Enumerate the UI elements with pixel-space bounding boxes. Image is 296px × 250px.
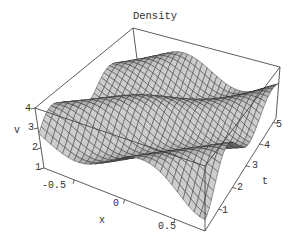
box-edge-right-vertical — [276, 67, 280, 118]
t-tick-3: 3 — [252, 160, 258, 171]
t-tick-2: 2 — [237, 182, 243, 193]
t-tick-1: 1 — [222, 205, 228, 216]
x-tick-neg0.5: -0.5 — [42, 180, 66, 191]
t-tick-5: 5 — [276, 119, 282, 130]
chart-title: Density — [133, 10, 177, 22]
t-tick-mark — [260, 144, 264, 145]
v-tick-3: 3 — [28, 122, 34, 133]
v-tick-2: 2 — [32, 142, 38, 153]
t-axis-label: t — [262, 176, 268, 187]
v-axis-label: v — [14, 125, 20, 136]
x-tick-0: 0 — [113, 198, 119, 209]
x-tick-mark — [73, 180, 74, 184]
surface-mesh — [39, 52, 279, 220]
x-axis-label: x — [99, 215, 105, 226]
v-tick-4: 4 — [25, 103, 31, 114]
density-surface-plot: Density v 4 3 2 1 -0.5 0 x 0.5 1 2 3 4 5… — [0, 0, 296, 250]
x-tick-0.5: 0.5 — [158, 221, 176, 232]
t-tick-mark — [232, 188, 236, 189]
v-tick-mark — [34, 128, 38, 129]
box-edge-left-vertical — [35, 108, 44, 168]
x-tick-mark — [124, 200, 125, 204]
v-tick-1: 1 — [35, 162, 41, 173]
t-tick-mark — [246, 166, 250, 167]
v-tick-mark — [31, 108, 35, 109]
t-tick-4: 4 — [264, 140, 270, 151]
